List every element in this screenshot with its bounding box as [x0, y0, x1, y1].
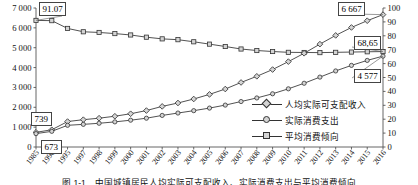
series-point-diamond — [112, 113, 118, 119]
series-point-circle — [129, 118, 133, 122]
legend-label-income: 人均实际可支配收入 — [282, 98, 366, 110]
series-point-diamond — [270, 67, 276, 73]
legend-marker-diamond-icon — [252, 99, 282, 109]
series-point-diamond — [144, 108, 150, 114]
series-point-diamond — [207, 92, 213, 98]
x-axis-tick-label: 2010 — [276, 148, 293, 166]
series-point-square — [318, 51, 322, 55]
series-point-diamond — [80, 117, 86, 123]
series-point-circle — [113, 120, 117, 124]
y-axis-left-tick-label: 0 — [27, 142, 31, 152]
legend-item-apc: 平均消费倾向 — [252, 128, 380, 144]
annotation-consumption-end: 4 577 — [354, 69, 381, 83]
figure-caption: 图 1-1 中国城镇居民人均实际可支配收入、实际消费支出与平均消费倾向 — [0, 176, 418, 185]
x-axis-tick-label: 2001 — [135, 148, 152, 166]
legend-item-consumption: 实际消费支出 — [252, 112, 380, 128]
series-point-diamond — [191, 96, 197, 102]
x-axis-tick-label: 2002 — [150, 148, 167, 166]
series-point-square — [192, 40, 196, 44]
series-point-circle — [334, 69, 338, 73]
x-axis-tick-label: 1998 — [87, 148, 104, 166]
y-axis-right-tick-label: 0 — [388, 142, 392, 152]
series-point-square — [286, 50, 290, 54]
series-line-square — [36, 20, 383, 52]
x-axis-tick-label: 2008 — [245, 148, 262, 166]
y-axis-right-tick-label: 10 — [388, 128, 397, 138]
series-point-diamond — [333, 33, 339, 39]
y-axis-right-tick-label: 100 — [388, 3, 401, 13]
x-axis-tick-label: 1997 — [71, 148, 88, 166]
series-point-circle — [349, 63, 353, 67]
y-axis-left-tick-label: 5 000 — [12, 43, 31, 53]
series-point-circle — [318, 75, 322, 79]
series-point-square — [334, 50, 338, 54]
x-axis-tick-label: 2006 — [213, 148, 230, 166]
series-point-square — [207, 42, 211, 46]
series-point-square — [349, 50, 353, 54]
x-axis-tick-label: 2014 — [340, 148, 357, 166]
series-point-square — [113, 31, 117, 35]
series-point-diamond — [364, 18, 370, 24]
annotation-apc-start: 91.07 — [39, 2, 66, 16]
series-point-diamond — [349, 25, 355, 31]
series-point-circle — [81, 122, 85, 126]
x-axis-tick-label: 2015 — [355, 148, 372, 166]
series-point-diamond — [286, 59, 292, 65]
y-axis-right-tick-label: 30 — [388, 100, 397, 110]
series-point-circle — [34, 132, 38, 136]
series-point-square — [365, 50, 369, 54]
legend-item-income: 人均实际可支配收入 — [252, 96, 380, 112]
series-point-square — [176, 38, 180, 42]
x-axis-tick-label: 2013 — [324, 148, 341, 166]
annotation-income-end: 6 667 — [338, 2, 365, 16]
annotation-consumption-start: 673 — [41, 140, 62, 154]
legend-marker-square-icon — [252, 131, 282, 141]
series-point-diamond — [96, 115, 102, 121]
x-axis-tick-label: 2003 — [166, 148, 183, 166]
series-point-square — [144, 35, 148, 39]
y-axis-right-tick-label: 80 — [388, 31, 397, 41]
series-point-circle — [286, 87, 290, 91]
series-point-diamond — [317, 41, 323, 47]
x-axis-tick-label: 2011 — [292, 148, 309, 166]
y-axis-left-tick-label: 2 000 — [12, 102, 31, 112]
x-axis-tick-label: 2016 — [371, 148, 388, 166]
y-axis-right-tick-label: 90 — [388, 17, 397, 27]
y-axis-left-tick-label: 4 000 — [12, 63, 31, 73]
x-axis-tick-label: 2009 — [261, 148, 278, 166]
y-axis-right-tick-label: 50 — [388, 73, 397, 83]
y-axis-right-tick-label: 60 — [388, 59, 397, 69]
series-point-square — [223, 44, 227, 48]
chart-figure: 01 0002 0003 0004 0005 0006 0007 0000102… — [0, 0, 418, 185]
y-axis-left-tick-label: 7 000 — [12, 3, 31, 13]
x-axis-tick-label: 2005 — [198, 148, 215, 166]
x-axis-tick-label: 1999 — [103, 148, 120, 166]
y-axis-right-tick-label: 40 — [388, 86, 397, 96]
annotation-income-start: 739 — [31, 112, 52, 126]
y-axis-right-tick-label: 20 — [388, 114, 397, 124]
series-point-square — [160, 37, 164, 41]
series-point-circle — [381, 54, 385, 58]
series-point-circle — [239, 99, 243, 103]
series-point-circle — [160, 113, 164, 117]
series-point-diamond — [222, 86, 228, 92]
annotation-leader-line — [36, 16, 62, 20]
annotation-apc-end: 68,65 — [354, 36, 381, 50]
chart-legend: 人均实际可支配收入 实际消费支出 平均消费倾向 — [252, 96, 380, 144]
series-point-circle — [192, 109, 196, 113]
series-point-diamond — [238, 80, 244, 86]
series-point-square — [97, 30, 101, 34]
y-axis-left-tick-label: 6 000 — [12, 23, 31, 33]
series-point-square — [81, 30, 85, 34]
series-point-diamond — [128, 111, 134, 117]
series-point-square — [50, 19, 54, 23]
series-point-square — [255, 48, 259, 52]
series-point-circle — [207, 106, 211, 110]
x-axis-tick-label: 2007 — [229, 148, 246, 166]
series-point-circle — [144, 116, 148, 120]
x-axis-tick-label: 2004 — [182, 148, 199, 166]
series-point-circle — [223, 103, 227, 107]
y-axis-left-tick-label: 1 000 — [12, 122, 31, 132]
series-point-square — [270, 49, 274, 53]
legend-label-consumption: 实际消费支出 — [282, 114, 339, 126]
